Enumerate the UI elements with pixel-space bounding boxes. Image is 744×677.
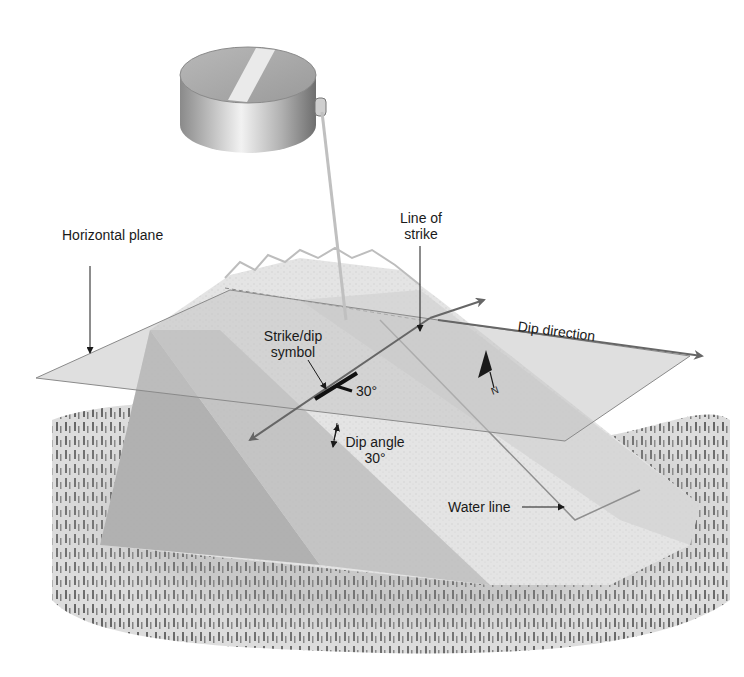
line-of-strike-label-line1: Line of xyxy=(393,210,449,226)
strike-dip-symbol-label-line2: symbol xyxy=(257,344,329,360)
horizontal-plane-label: Horizontal plane xyxy=(62,227,163,243)
line-of-strike-label: Line of strike xyxy=(393,210,449,242)
water-line-label: Water line xyxy=(448,499,511,515)
symbol-angle-label: 30° xyxy=(356,383,377,399)
diagram-canvas xyxy=(0,0,744,677)
dip-angle-label: Dip angle 30° xyxy=(340,434,410,466)
dip-angle-label-line2: 30° xyxy=(340,450,410,466)
strike-dip-symbol-label: Strike/dip symbol xyxy=(257,328,329,360)
line-of-strike-label-line2: strike xyxy=(393,226,449,242)
strike-dip-diagram: Horizontal plane Line of strike Strike/d… xyxy=(0,0,744,677)
dip-angle-label-line1: Dip angle xyxy=(340,434,410,450)
strike-dip-symbol-label-line1: Strike/dip xyxy=(257,328,329,344)
